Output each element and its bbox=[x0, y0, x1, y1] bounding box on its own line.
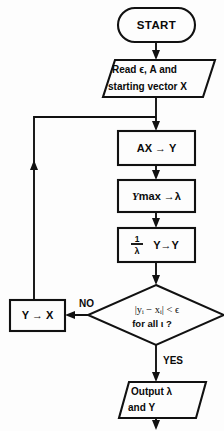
node-start[interactable]: START bbox=[118, 8, 195, 42]
node-read-label-line1: Read ϵ, A and bbox=[112, 64, 177, 75]
node-normalize-label-suffix: Y→Y bbox=[153, 239, 179, 251]
node-multiply-label: AX → Y bbox=[137, 142, 177, 154]
node-normalize-denominator: λ bbox=[134, 246, 139, 256]
edge-label-yes: YES bbox=[163, 355, 183, 366]
node-output-label-line2: and Y bbox=[128, 402, 155, 413]
node-read-label-line2: starting vector X bbox=[108, 81, 187, 92]
node-normalize-numerator: 1 bbox=[135, 234, 140, 244]
node-output[interactable]: Output λ and Y bbox=[119, 382, 206, 418]
node-convergence-decision[interactable]: |yᵢ − xᵢ| < ϵ for all ι ? bbox=[88, 285, 224, 345]
connector-normalize-to-decision bbox=[152, 262, 160, 285]
node-decision-label-line2: for all ι ? bbox=[132, 318, 172, 329]
node-read-input[interactable]: Read ϵ, A and starting vector X bbox=[103, 60, 215, 97]
node-normalize[interactable]: 1 λ Y→Y bbox=[118, 228, 195, 262]
node-update-label: Y → X bbox=[22, 309, 54, 321]
node-update[interactable]: Y → X bbox=[10, 300, 65, 331]
connector-multiply-to-maximum bbox=[152, 165, 160, 180]
connector-decision-yes-to-output bbox=[152, 345, 160, 382]
flowchart-page: START Read ϵ, A and starting vector X AX… bbox=[0, 0, 224, 431]
node-multiply[interactable]: AX → Y bbox=[118, 131, 195, 165]
node-maximum[interactable]: Ymax →λ bbox=[118, 180, 195, 212]
node-decision-label-line1: |yᵢ − xᵢ| < ϵ bbox=[135, 304, 180, 315]
flowchart-canvas: START Read ϵ, A and starting vector X AX… bbox=[0, 0, 224, 431]
node-start-label: START bbox=[137, 19, 176, 31]
node-output-label-line1: Output λ bbox=[131, 386, 173, 397]
connector-maximum-to-normalize bbox=[152, 212, 160, 228]
edge-label-no: NO bbox=[79, 298, 94, 309]
node-maximum-label-suffix: max →λ bbox=[139, 190, 181, 202]
node-maximum-label: Ymax →λ bbox=[132, 190, 181, 202]
connector-start-to-read bbox=[152, 42, 160, 60]
connector-output-exit bbox=[152, 418, 160, 430]
connector-read-to-multiply bbox=[152, 97, 160, 131]
